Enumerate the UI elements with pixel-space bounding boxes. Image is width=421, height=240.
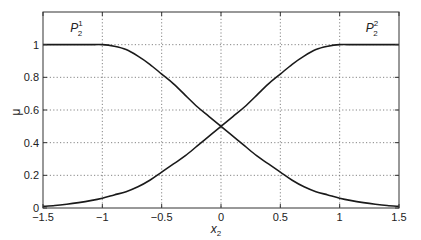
grid-lines <box>43 12 399 208</box>
x-tick-label: 0.5 <box>273 211 288 223</box>
x-tick-label: −0.5 <box>151 211 173 223</box>
curve-annotations: P12P22 <box>70 19 378 38</box>
y-tick-label: 0.8 <box>24 71 39 83</box>
x-axis-label-sub: 2 <box>217 229 222 238</box>
annotation-p2-1: P12 <box>70 19 83 38</box>
y-tick-label: 1 <box>33 39 39 51</box>
y-tick-label: 0 <box>33 202 39 214</box>
y-tick-labels: 00.20.40.60.81 <box>24 39 39 214</box>
membership-function-chart: −1.5−1−0.500.511.5 00.20.40.60.81 P12P22… <box>0 0 421 240</box>
y-axis-label: μ <box>9 108 23 115</box>
x-tick-labels: −1.5−1−0.500.511.5 <box>32 211 407 223</box>
x-tick-label: −1 <box>96 211 109 223</box>
y-tick-label: 0.2 <box>24 169 39 181</box>
y-tick-label: 0.4 <box>24 137 39 149</box>
x-tick-label: 1 <box>337 211 343 223</box>
annotation-p2-2: P22 <box>366 19 379 38</box>
x-tick-label: 0 <box>218 211 224 223</box>
x-tick-label: 1.5 <box>391 211 406 223</box>
x-axis-label: x2 <box>210 222 222 238</box>
y-tick-label: 0.6 <box>24 104 39 116</box>
